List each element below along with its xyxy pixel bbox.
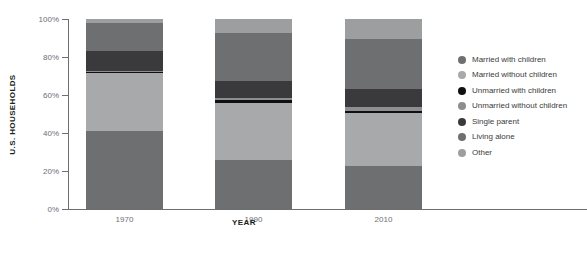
- bar-segment: [215, 160, 292, 209]
- bar-segment: [86, 73, 163, 131]
- x-axis-title: YEAR: [68, 218, 420, 227]
- legend-swatch-icon: [458, 102, 466, 110]
- y-axis-tick-label: 0%: [47, 205, 59, 214]
- legend-item: Married without children: [458, 68, 587, 84]
- bar-segment: [345, 39, 422, 89]
- legend-item: Other: [458, 145, 587, 161]
- y-axis-tick: [62, 57, 68, 58]
- legend-swatch-icon: [458, 71, 466, 79]
- legend-swatch-icon: [458, 56, 466, 64]
- y-axis-tick: [62, 95, 68, 96]
- legend-swatch-icon: [458, 118, 466, 126]
- bar-segment: [215, 33, 292, 81]
- bar-1990: [215, 19, 292, 209]
- bar-1970: [86, 19, 163, 209]
- legend-item-label: Unmarried without children: [472, 102, 567, 110]
- y-axis-tick-label: 60%: [43, 91, 59, 100]
- y-axis-tick-label: 80%: [43, 53, 59, 62]
- legend-item: Unmarried without children: [458, 99, 587, 115]
- legend-item: Married with children: [458, 52, 587, 68]
- legend-item-label: Other: [472, 149, 492, 157]
- legend-item-label: Married with children: [472, 56, 546, 64]
- bar-2010: [345, 19, 422, 209]
- y-axis-tick: [62, 19, 68, 20]
- bar-segment: [86, 51, 163, 71]
- y-axis-tick: [62, 171, 68, 172]
- legend-item: Unmarried with children: [458, 83, 587, 99]
- legend-item: Living alone: [458, 130, 587, 146]
- legend-swatch-icon: [458, 87, 466, 95]
- y-axis-tick: [62, 209, 68, 210]
- legend-item-label: Single parent: [472, 118, 519, 126]
- y-axis-tick-label: 100%: [39, 15, 59, 24]
- legend-item-label: Married without children: [472, 71, 557, 79]
- y-axis-tick-label: 40%: [43, 129, 59, 138]
- y-axis-tick: [62, 133, 68, 134]
- legend-swatch-icon: [458, 133, 466, 141]
- bar-segment: [215, 81, 292, 98]
- bar-segment: [345, 89, 422, 107]
- bar-segment: [86, 23, 163, 52]
- bar-segment: [345, 113, 422, 166]
- x-axis-line: [68, 209, 587, 210]
- plot-area: 0%20%40%60%80%100% 197019902010: [68, 19, 420, 209]
- bar-segment: [86, 131, 163, 209]
- legend-item: Single parent: [458, 114, 587, 130]
- legend-item-label: Living alone: [472, 133, 515, 141]
- bar-segment: [345, 19, 422, 39]
- legend: Married with childrenMarried without chi…: [458, 52, 587, 161]
- legend-item-label: Unmarried with children: [472, 87, 556, 95]
- y-axis-title: U.S. HOUSEHOLDS: [8, 45, 17, 185]
- y-axis-line: [68, 19, 69, 210]
- bar-segment: [345, 166, 422, 209]
- bar-segment: [215, 103, 292, 160]
- bar-segment: [215, 19, 292, 33]
- legend-swatch-icon: [458, 149, 466, 157]
- stacked-bar-chart: U.S. HOUSEHOLDS 0%20%40%60%80%100% 19701…: [0, 0, 587, 257]
- y-axis-tick-label: 20%: [43, 167, 59, 176]
